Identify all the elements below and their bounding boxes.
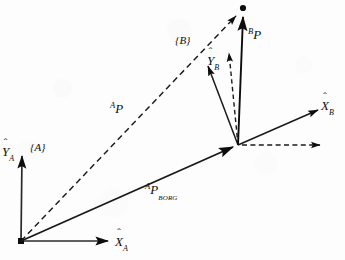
x-b-subscript: B xyxy=(329,108,334,117)
x-a-letter: X xyxy=(115,234,123,249)
b-p-base: P xyxy=(253,27,261,42)
a-p-borg-subscript: BORG xyxy=(158,194,177,202)
x-a-hat-symbol: ̂X xyxy=(115,233,123,249)
figure-root: ̂YA {A} ̂XA ̂XB ̂YB {B} AP BP APBORG xyxy=(0,0,345,260)
axis-label-y-a: ̂YA xyxy=(2,143,14,162)
point-p-marker xyxy=(240,5,246,11)
a-p-base: P xyxy=(115,101,123,116)
axis-label-x-b: ̂XB xyxy=(321,97,334,116)
a-p-borg-presuperscript: A xyxy=(145,181,150,191)
vector-a-p-borg xyxy=(21,147,233,241)
frame-tag-a: {A} xyxy=(30,142,46,153)
vector-label-a-p: AP xyxy=(110,100,123,116)
b-p-presuperscript: B xyxy=(248,26,253,36)
axis-x-b xyxy=(238,110,318,145)
frame-b-axes xyxy=(208,66,318,145)
a-p-borg-base: P xyxy=(150,182,158,197)
vector-label-a-p-borg: APBORG xyxy=(145,181,178,201)
axis-label-y-b: ̂YB xyxy=(207,52,219,71)
axis-label-x-a: ̂XA xyxy=(115,233,128,252)
axis-y-a xyxy=(21,156,22,241)
reference-lines xyxy=(229,53,320,145)
y-a-subscript: A xyxy=(9,154,14,163)
a-p-presuperscript: A xyxy=(110,100,115,110)
frame-tag-b: {B} xyxy=(175,35,191,46)
x-a-subscript: A xyxy=(123,244,128,253)
frame-transformation-diagram xyxy=(0,0,345,260)
vector-a-p xyxy=(21,16,236,241)
vector-b-p xyxy=(238,17,243,145)
vector-label-b-p: BP xyxy=(248,26,261,42)
x-b-letter: X xyxy=(321,98,329,113)
x-b-hat-symbol: ̂X xyxy=(321,97,329,113)
y-b-subscript: B xyxy=(214,63,219,72)
